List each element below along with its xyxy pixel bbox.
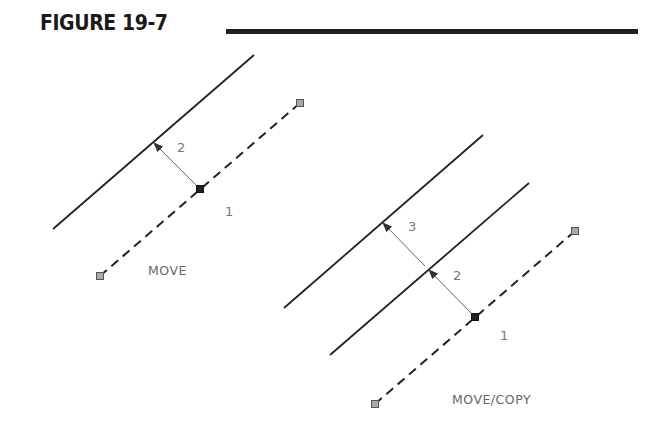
end-grip[interactable] [572, 228, 579, 235]
end-grip[interactable] [97, 273, 104, 280]
solid-line[interactable] [53, 55, 254, 229]
base-grip[interactable] [472, 314, 479, 321]
point-label: 1 [500, 328, 508, 343]
displacement-arrow [383, 223, 425, 266]
displacement-arrow [154, 143, 196, 185]
panel-caption: MOVE/COPY [452, 392, 531, 407]
base-grip[interactable] [197, 186, 204, 193]
end-grip[interactable] [297, 100, 304, 107]
panel-move-copy: 2 3 1 MOVE/COPY [284, 135, 579, 408]
displacement-arrow [429, 270, 471, 313]
arrow-label: 2 [453, 268, 461, 283]
point-label: 1 [225, 204, 233, 219]
arrow-label: 3 [408, 219, 416, 234]
figure-canvas: FIGURE 19-7 2 1 MOVE [0, 0, 659, 437]
panel-move: 2 1 MOVE [53, 55, 304, 280]
arrow-label: 2 [177, 140, 185, 155]
panel-caption: MOVE [148, 263, 187, 278]
cad-drawing: 2 1 MOVE 2 3 1 MOVE/COPY [0, 0, 659, 437]
end-grip[interactable] [372, 401, 379, 408]
